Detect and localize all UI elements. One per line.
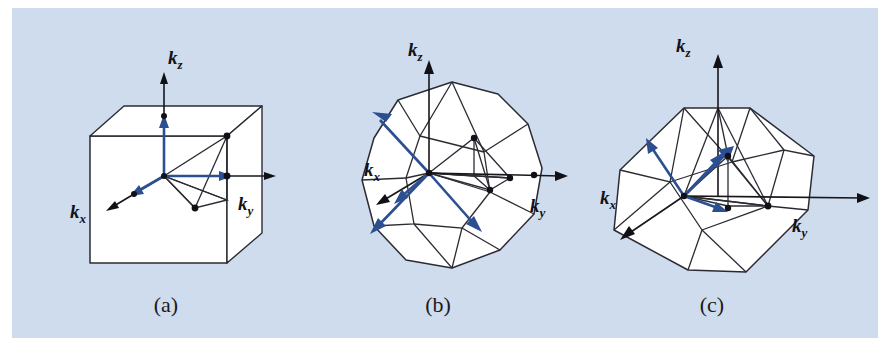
- point-dot: [131, 191, 137, 197]
- caption-c: (c): [672, 292, 752, 318]
- rhombic-dodecahedron-outline: [614, 108, 814, 272]
- point-dot: [507, 175, 513, 181]
- point-dot: [224, 133, 231, 140]
- axis-label-kz-c: kz: [676, 35, 692, 60]
- panel-b-brillouin-zone-bcc: kz ky kx: [302, 28, 592, 298]
- point-dot: [161, 173, 167, 179]
- point-dot: [426, 170, 432, 176]
- point-dot: [471, 135, 477, 141]
- axis-label-kx-a: kx: [70, 201, 87, 226]
- axis-label-kx-c: kx: [600, 187, 617, 212]
- figure-canvas: kz ky kx: [12, 8, 878, 338]
- panel-c-brillouin-zone-fcc: kz ky kx: [592, 20, 890, 300]
- point-dot: [531, 172, 537, 178]
- point-dot: [161, 113, 167, 119]
- axis-label-ky-c: ky: [792, 215, 808, 240]
- caption-a: (a): [126, 292, 206, 318]
- point-dot: [487, 187, 493, 193]
- point-dot: [765, 203, 772, 210]
- point-dot: [725, 153, 731, 159]
- cube-front-face: [90, 136, 227, 263]
- point-dot: [192, 205, 199, 212]
- figure-root: kz ky kx: [0, 0, 890, 346]
- axis-label-kz-a: kz: [168, 47, 184, 72]
- caption-b: (b): [398, 292, 478, 318]
- point-dot: [224, 173, 231, 180]
- point-dot: [725, 205, 731, 211]
- panel-a-brillouin-zone-cubic: kz ky kx: [52, 28, 312, 298]
- axis-label-kz-b: kz: [408, 39, 424, 64]
- point-dot: [681, 193, 687, 199]
